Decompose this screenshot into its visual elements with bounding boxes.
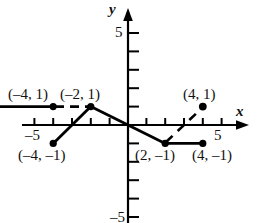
point-pos4-neg1 bbox=[199, 140, 206, 147]
y-axis-arrowhead bbox=[123, 8, 133, 21]
x-tick-label-neg5: –5 bbox=[25, 128, 40, 143]
graph-figure: y x 5 –5 –5 5 (–4, 1) (–2, 1) (4, 1) (–4… bbox=[0, 0, 259, 223]
point-label-neg4-1: (–4, 1) bbox=[8, 87, 48, 102]
x-axis-arrowhead bbox=[236, 120, 249, 130]
point-neg4-neg1 bbox=[50, 140, 57, 147]
point-neg4-1 bbox=[50, 103, 57, 110]
point-label-neg2-1: (–2, 1) bbox=[60, 87, 100, 102]
point-label-pos4-neg1: (4, –1) bbox=[192, 148, 232, 163]
x-tick-label-5: 5 bbox=[214, 128, 222, 143]
coordinate-plane-svg bbox=[0, 0, 259, 223]
point-pos4-1 bbox=[199, 103, 207, 111]
point-pos2-neg1 bbox=[162, 140, 169, 147]
point-neg2-1 bbox=[87, 103, 94, 110]
y-tick-label-5: 5 bbox=[115, 25, 123, 40]
point-label-pos4-1: (4, 1) bbox=[183, 87, 216, 102]
point-label-neg4-neg1: (–4, –1) bbox=[18, 148, 66, 163]
point-label-pos2-neg1: (2, –1) bbox=[135, 148, 175, 163]
y-tick-label-neg5: –5 bbox=[110, 210, 125, 223]
y-axis-label: y bbox=[109, 2, 116, 17]
x-axis-label: x bbox=[236, 104, 244, 119]
